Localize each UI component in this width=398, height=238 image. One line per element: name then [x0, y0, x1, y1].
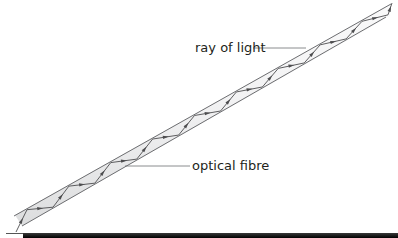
optical-fibre-label: optical fibre [192, 159, 269, 172]
fibre-body [15, 4, 390, 226]
ray-of-light-label: ray of light [195, 41, 266, 54]
optical-fibre-diagram [0, 0, 398, 238]
fibre-upper-edge [14, 4, 391, 216]
bottom-rule [23, 233, 398, 238]
bottom-rule-left [6, 233, 23, 234]
